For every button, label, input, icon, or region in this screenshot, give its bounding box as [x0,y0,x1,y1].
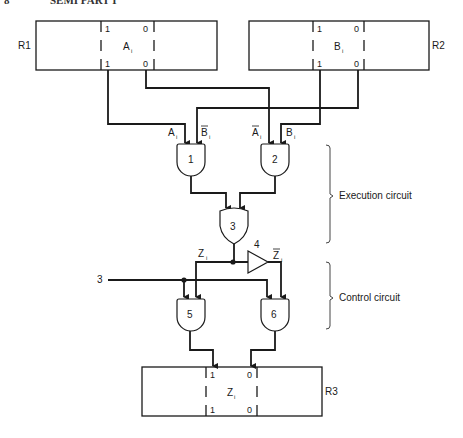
r1-top-left: 1 [105,24,110,34]
and-gate-5: 5 [177,299,205,331]
header-number: 8 [4,0,10,6]
execution-circuit-bracket: Execution circuit [326,145,412,243]
wire-control [108,280,267,297]
svg-text:i: i [294,134,295,140]
r3-bit-label: Z [227,387,233,398]
gate-1-label: 1 [188,154,194,165]
r2-top-left: 1 [317,24,322,34]
svg-text:i: i [206,255,207,261]
svg-text:i: i [260,134,261,140]
gate-4-label: 4 [254,239,260,250]
r2-bit-sub: i [342,48,343,54]
r1-bit-label: A [123,41,130,52]
gate-2-label: 2 [272,154,278,165]
signal-a-label: A i [168,127,177,140]
svg-text:B: B [201,127,208,138]
control-circuit-label: Control circuit [339,292,400,303]
execution-circuit-label: Execution circuit [339,190,412,201]
svg-text:B: B [286,127,293,138]
and-gate-6: 6 [261,299,289,331]
svg-text:Z: Z [273,250,279,261]
r1-bit-sub: i [131,48,132,54]
gate-6-label: 6 [271,309,277,320]
signal-z-bar-label: Z i [273,249,282,263]
svg-text:A: A [252,127,259,138]
signal-b-bar-label: B i [201,126,210,140]
r1-name: R1 [18,40,31,51]
r3-name: R3 [325,386,338,397]
r2-bit-label: B [334,41,341,52]
logic-diagram: 8 SEMI PART I 1 0 1 0 A i R1 1 0 1 0 B i… [0,0,463,438]
wire-g6-r3 [251,331,275,366]
r2-top-right: 0 [354,24,359,34]
gate-3-label: 3 [230,221,236,232]
wire-g2-g3 [240,176,275,208]
r3-bottom-left: 1 [210,405,215,415]
control-input-label: 3 [97,274,103,285]
not-gate-4: 4 [248,239,268,273]
svg-text:i: i [176,134,177,140]
register-r2: 1 0 1 0 B i R2 [249,21,445,70]
r3-bottom-right: 0 [247,405,252,415]
signal-a-bar-label: A i [252,126,261,140]
register-r3: 1 0 1 0 Z i R3 [142,367,338,416]
r2-name: R2 [432,40,445,51]
register-r1: 1 0 1 0 A i R1 [18,21,217,70]
svg-text:Z: Z [198,248,204,259]
r1-bottom-left: 1 [105,59,110,69]
wire-g5-r3 [190,331,213,366]
signal-b-label: B i [286,127,295,140]
svg-text:i: i [209,134,210,140]
and-gate-2: 2 [261,144,289,176]
r2-bottom-left: 1 [317,59,322,69]
wire-g1-g3 [191,176,226,208]
and-gate-1: 1 [177,144,205,176]
signal-z-label: Z i [198,248,207,261]
r1-top-right: 0 [143,24,148,34]
or-gate-3: 3 [220,208,248,244]
wire-b-bar [197,70,358,143]
wire-z-bar [268,262,281,297]
svg-text:i: i [281,257,282,263]
r3-bit-sub: i [234,394,235,400]
control-circuit-bracket: Control circuit [326,262,400,329]
svg-text:A: A [168,127,175,138]
r3-top-left: 1 [210,370,215,380]
r3-top-right: 0 [247,370,252,380]
gate-5-label: 5 [187,309,193,320]
header-title: SEMI PART I [50,0,116,6]
r2-bottom-right: 0 [354,59,359,69]
r1-bottom-right: 0 [143,59,148,69]
